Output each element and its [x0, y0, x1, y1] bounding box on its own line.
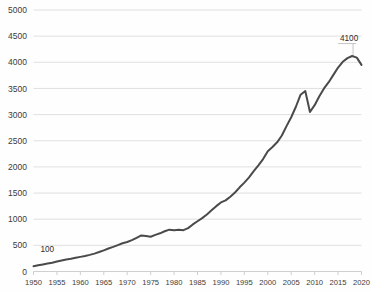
y-tick-label: 1000 [8, 214, 27, 224]
annotation-start-value: 100 [41, 245, 55, 254]
x-tick-label: 1955 [48, 278, 65, 287]
data-line-index [34, 56, 362, 266]
x-axis-labels-group: 1950195519601965197019751980198519901995… [25, 278, 370, 287]
x-tick-label: 1975 [142, 278, 159, 287]
y-tick-label: 2500 [8, 136, 27, 146]
x-tick-label: 1990 [212, 278, 229, 287]
data-series-group [34, 56, 362, 266]
gridlines-group [34, 10, 362, 245]
x-tick-label: 2005 [283, 278, 300, 287]
y-axis-labels-group: 0500100015002000250030003500400045005000 [8, 5, 27, 277]
x-tick-label: 2020 [353, 278, 370, 287]
y-tick-label: 4000 [8, 57, 27, 67]
y-tick-label: 2000 [8, 162, 27, 172]
annotation-peak-value: 4100 [340, 34, 359, 43]
x-tick-label: 2000 [259, 278, 276, 287]
annotations-group: 1004100 [41, 34, 359, 254]
y-tick-label: 500 [13, 240, 27, 250]
x-tick-label: 1985 [189, 278, 206, 287]
y-tick-label: 1500 [8, 188, 27, 198]
x-tick-label: 1950 [25, 278, 42, 287]
x-tick-label: 2015 [330, 278, 347, 287]
x-tick-label: 1970 [119, 278, 136, 287]
y-tick-label: 3500 [8, 84, 27, 94]
x-tick-label: 1980 [166, 278, 183, 287]
y-tick-label: 3000 [8, 110, 27, 120]
x-tick-label: 1995 [236, 278, 253, 287]
y-tick-label: 0 [22, 267, 27, 277]
y-tick-label: 4500 [8, 31, 27, 41]
x-tick-label: 1965 [95, 278, 112, 287]
tickmarks-group [34, 272, 362, 276]
x-tick-label: 1960 [72, 278, 89, 287]
y-tick-label: 5000 [8, 5, 27, 15]
chart-plot-area: 0500100015002000250030003500400045005000… [0, 0, 371, 292]
x-tick-label: 2010 [306, 278, 323, 287]
line-chart: 0500100015002000250030003500400045005000… [0, 0, 371, 292]
